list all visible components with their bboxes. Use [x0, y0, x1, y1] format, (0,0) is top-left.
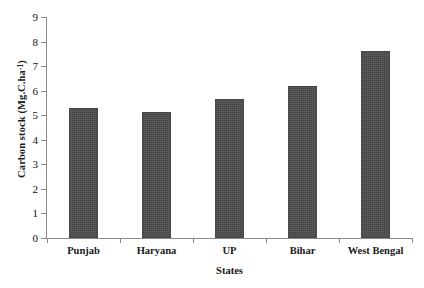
y-axis-tick-label: 7	[22, 60, 38, 72]
y-axis-tick	[41, 164, 46, 165]
y-axis-tick-label: 3	[22, 158, 38, 170]
y-axis-tick	[41, 238, 46, 239]
y-axis-tick	[41, 17, 46, 18]
y-axis-tick-label: 9	[22, 11, 38, 23]
y-axis-tick	[41, 42, 46, 43]
x-axis-tick	[412, 238, 413, 243]
y-axis-tick-label-text: 6	[33, 85, 39, 97]
x-axis-tick	[339, 238, 340, 243]
bar	[69, 108, 98, 238]
y-axis-tick-label: 1	[22, 207, 38, 219]
x-axis-category-label: UP	[193, 245, 266, 256]
x-axis-category-label: Punjab	[47, 245, 120, 256]
bar	[215, 99, 244, 238]
x-axis-tick	[266, 238, 267, 243]
x-axis-category-label: Haryana	[120, 245, 193, 256]
y-axis-tick-label: 4	[22, 134, 38, 146]
bar	[288, 86, 317, 238]
y-axis-tick-label: 8	[22, 36, 38, 48]
x-axis-tick	[47, 238, 48, 243]
bar	[142, 112, 171, 238]
x-axis-line	[46, 238, 412, 239]
y-axis-tick-label-text: 3	[33, 158, 39, 170]
y-axis-tick	[41, 189, 46, 190]
y-axis-tick-label: 5	[22, 109, 38, 121]
bar-chart-figure: Carbon stock (Mg.C.ha-1) 0123456789 Punj…	[0, 0, 424, 288]
y-axis-tick-label-text: 0	[33, 232, 39, 244]
x-axis-category-label: West Bengal	[339, 245, 412, 256]
x-axis-tick	[120, 238, 121, 243]
y-axis-tick-label: 2	[22, 183, 38, 195]
y-axis-tick	[41, 213, 46, 214]
y-axis-tick	[41, 115, 46, 116]
y-axis-tick-label-text: 4	[33, 134, 39, 146]
y-axis-tick-label-text: 5	[33, 109, 39, 121]
y-axis-tick-label-text: 1	[33, 207, 39, 219]
plot-area	[47, 17, 412, 238]
x-axis-tick	[193, 238, 194, 243]
y-axis-tick-label: 0	[22, 232, 38, 244]
y-axis-tick-label-text: 2	[33, 183, 39, 195]
y-axis-tick-label-text: 9	[33, 11, 39, 23]
y-axis-tick-label-text: 7	[33, 60, 39, 72]
y-axis-tick	[41, 140, 46, 141]
bar	[361, 51, 390, 238]
y-axis-tick-label: 6	[22, 85, 38, 97]
x-axis-category-label: Bihar	[266, 245, 339, 256]
y-axis-tick	[41, 91, 46, 92]
x-axis-title: States	[47, 265, 412, 276]
y-axis-tick	[41, 66, 46, 67]
y-axis-tick-label-text: 8	[33, 36, 39, 48]
